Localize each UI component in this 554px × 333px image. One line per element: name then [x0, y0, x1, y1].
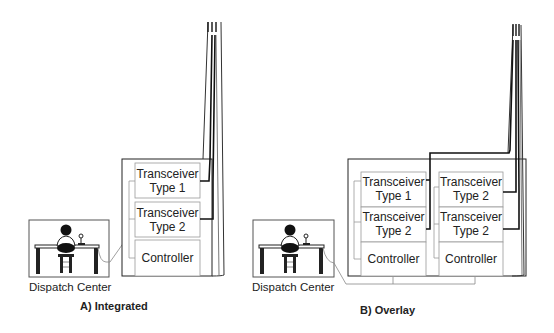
svg-text:Controller: Controller — [445, 252, 497, 266]
rack2-module-transceiver-type2-upper: Transceiver Type 2 — [439, 172, 503, 207]
dispatch-center-label-b: Dispatch Center — [252, 281, 335, 293]
rack2-module-controller: Controller — [439, 242, 503, 276]
rack2-module-transceiver-type2-lower: Transceiver Type 2 — [439, 207, 503, 242]
svg-text:Controller: Controller — [141, 251, 193, 265]
svg-text:Type 2: Type 2 — [453, 224, 489, 238]
caption-integrated: A) Integrated — [80, 300, 148, 312]
svg-text:Type 1: Type 1 — [149, 181, 185, 195]
module-transceiver-type2-a: Transceiver Type 2 — [135, 202, 200, 237]
svg-text:Transceiver: Transceiver — [136, 206, 198, 220]
module-transceiver-type1-a: Transceiver Type 1 — [135, 163, 200, 198]
panel-overlay: Dispatch Center Transceiver Type 1 Trans… — [252, 24, 526, 316]
svg-text:Type 2: Type 2 — [149, 220, 185, 234]
svg-text:Transceiver: Transceiver — [362, 175, 424, 189]
svg-text:Transceiver: Transceiver — [136, 167, 198, 181]
dispatch-center-label-a: Dispatch Center — [29, 281, 112, 293]
caption-overlay: B) Overlay — [360, 304, 416, 316]
svg-text:Type 2: Type 2 — [375, 224, 411, 238]
rack1-module-controller: Controller — [361, 242, 426, 276]
rack1-module-transceiver-type2: Transceiver Type 2 — [361, 207, 426, 242]
svg-text:Controller: Controller — [367, 252, 419, 266]
dispatch-center-a — [29, 220, 109, 277]
panel-integrated: Dispatch Center Transceiver Type 1 Trans… — [29, 22, 224, 312]
dispatch-center-b — [253, 220, 334, 277]
svg-text:Type 2: Type 2 — [453, 189, 489, 203]
svg-text:Transceiver: Transceiver — [440, 210, 502, 224]
svg-text:Transceiver: Transceiver — [440, 175, 502, 189]
svg-text:Transceiver: Transceiver — [362, 210, 424, 224]
diagram-canvas: Dispatch Center Transceiver Type 1 Trans… — [0, 0, 554, 333]
module-controller-a: Controller — [135, 240, 200, 276]
rack1-module-transceiver-type1: Transceiver Type 1 — [361, 172, 426, 207]
svg-text:Type 1: Type 1 — [375, 189, 411, 203]
